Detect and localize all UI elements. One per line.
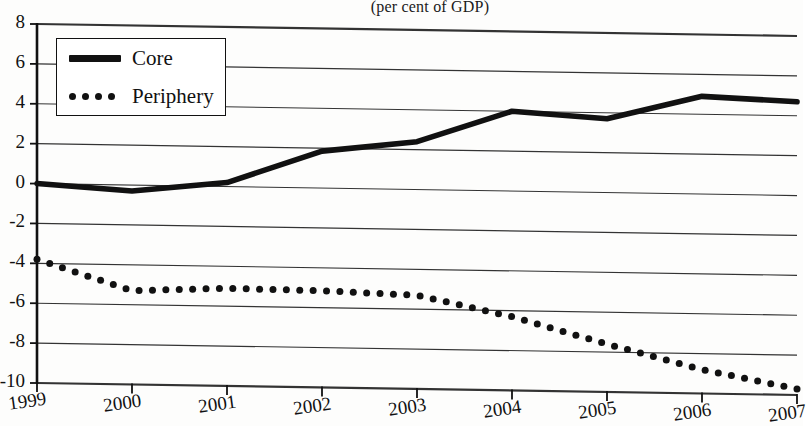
solid-line-icon xyxy=(69,55,121,62)
x-axis-tick-label: 2007 xyxy=(767,400,808,426)
legend-label-periphery: Periphery xyxy=(132,84,214,109)
y-axis-tick-label: -6 xyxy=(0,290,25,312)
y-axis-tick-label: -2 xyxy=(0,210,25,232)
y-axis-tick-label: 6 xyxy=(0,51,25,73)
legend-item-core: Core xyxy=(57,39,225,77)
x-axis-tick-label: 2000 xyxy=(102,389,143,416)
x-axis-tick-label: 2004 xyxy=(482,395,523,422)
y-axis-tick-label: -10 xyxy=(0,370,25,392)
x-axis-tick-label: 2002 xyxy=(292,392,333,419)
y-axis-tick-label: 4 xyxy=(0,91,25,113)
y-axis-tick-label: -8 xyxy=(0,330,25,352)
x-axis-tick-label: 2006 xyxy=(672,398,713,425)
y-axis-tick-label: 2 xyxy=(0,131,25,153)
y-axis-tick-label: 0 xyxy=(0,171,25,193)
dotted-line-icon xyxy=(69,93,121,100)
legend-label-core: Core xyxy=(132,46,173,71)
legend-item-periphery: Periphery xyxy=(57,77,225,115)
y-axis-tick-label: 8 xyxy=(0,11,25,33)
chart-legend: Core Periphery xyxy=(56,38,226,116)
y-axis-tick-label: -4 xyxy=(0,250,25,272)
